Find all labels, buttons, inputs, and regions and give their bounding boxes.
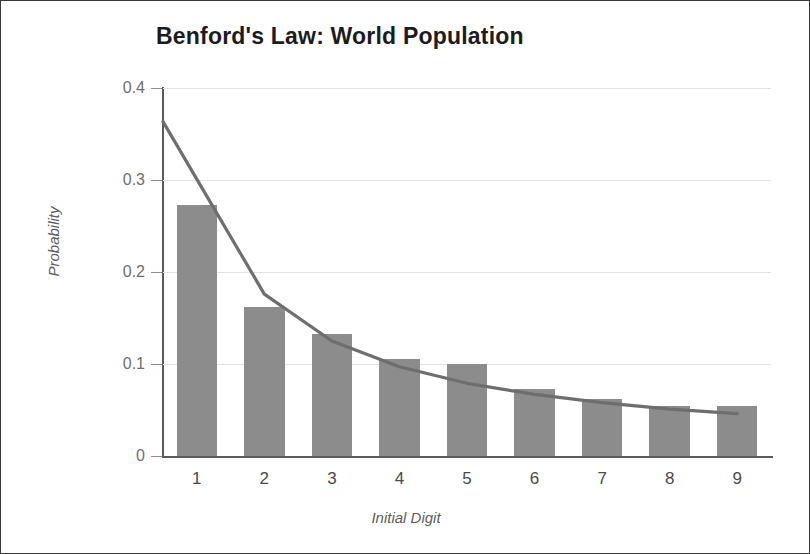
y-axis-tick-mark xyxy=(151,272,162,273)
bar xyxy=(447,364,488,456)
x-axis-tick-label: 1 xyxy=(177,469,217,489)
gridline xyxy=(163,180,771,181)
bar xyxy=(649,406,690,456)
x-axis-line xyxy=(162,456,773,458)
x-axis-tick-label: 9 xyxy=(717,469,757,489)
x-axis-label: Initial Digit xyxy=(1,509,810,526)
y-axis-tick-label: 0.1 xyxy=(85,355,145,373)
y-axis-tick-label: 0.2 xyxy=(85,263,145,281)
y-axis-tick-mark xyxy=(151,88,162,89)
bar xyxy=(514,389,555,456)
gridline xyxy=(163,272,771,273)
y-axis-tick-label: 0 xyxy=(85,447,145,465)
y-axis-tick-mark xyxy=(151,364,162,365)
plot-area xyxy=(163,88,771,456)
bar xyxy=(312,334,353,456)
bar xyxy=(582,399,623,456)
bar xyxy=(177,205,218,456)
bar xyxy=(379,359,420,456)
y-axis-tick-label: 0.4 xyxy=(85,79,145,97)
gridline xyxy=(163,88,771,89)
bar xyxy=(717,406,758,456)
x-axis-tick-label: 6 xyxy=(515,469,555,489)
y-axis-tick-label: 0.3 xyxy=(85,171,145,189)
x-axis-tick-label: 4 xyxy=(379,469,419,489)
y-axis-tick-mark xyxy=(151,180,162,181)
chart-title: Benford's Law: World Population xyxy=(156,23,524,50)
x-axis-tick-label: 8 xyxy=(650,469,690,489)
x-axis-tick-label: 7 xyxy=(582,469,622,489)
chart-figure: Benford's Law: World Population 00.10.20… xyxy=(0,0,810,554)
y-axis-label: Probability xyxy=(45,182,62,302)
bar xyxy=(244,307,285,456)
y-axis-tick-labels: 00.10.20.30.4 xyxy=(79,1,145,554)
x-axis-tick-label: 5 xyxy=(447,469,487,489)
y-axis-tick-mark xyxy=(151,456,162,457)
x-axis-tick-label: 2 xyxy=(244,469,284,489)
x-axis-tick-label: 3 xyxy=(312,469,352,489)
